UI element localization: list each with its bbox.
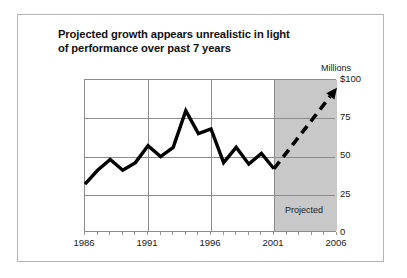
chart-title-line-2: of performance over past 7 years	[58, 42, 368, 56]
x-tick-label-1996: 1996	[190, 237, 230, 248]
x-tick-label-1991: 1991	[127, 237, 167, 248]
x-tick-2002	[286, 232, 287, 235]
actual-series-line	[85, 111, 274, 184]
chart-card: Projected growth appears unrealistic in …	[17, 14, 384, 262]
x-tick-label-2006: 2006	[316, 237, 356, 248]
y-tick-label-50: 50	[340, 150, 351, 160]
x-tick-1987	[97, 232, 98, 235]
x-tick-1995	[197, 232, 198, 235]
x-tick-1999	[248, 232, 249, 235]
y-tick-label-100: $100	[340, 74, 361, 84]
chart-title: Projected growth appears unrealistic in …	[58, 28, 368, 55]
x-tick-1986	[84, 232, 85, 235]
projected-series-line	[274, 96, 330, 168]
x-tick-label-1986: 1986	[64, 237, 104, 248]
x-tick-1992	[160, 232, 161, 235]
x-tick-2001	[273, 232, 274, 235]
x-tick-2006	[336, 232, 337, 235]
chart-figure: Projected growth appears unrealistic in …	[0, 0, 407, 278]
chart-title-line-1: Projected growth appears unrealistic in …	[58, 28, 368, 42]
y-tick-label-0: 0	[340, 227, 345, 237]
plot-area: Projected	[84, 79, 336, 232]
x-tick-1997	[223, 232, 224, 235]
x-tick-1996	[210, 232, 211, 235]
series-paths	[85, 80, 337, 233]
x-tick-2000	[260, 232, 261, 235]
x-tick-2003	[298, 232, 299, 235]
y-axis-units-label: Millions	[321, 63, 351, 73]
x-tick-1993	[172, 232, 173, 235]
x-tick-2005	[323, 232, 324, 235]
x-tick-label-2001: 2001	[253, 237, 293, 248]
y-tick-label-75: 75	[340, 112, 351, 122]
x-tick-1994	[185, 232, 186, 235]
x-tick-1998	[235, 232, 236, 235]
x-tick-1989	[122, 232, 123, 235]
x-tick-1988	[109, 232, 110, 235]
x-tick-1990	[134, 232, 135, 235]
x-tick-1991	[147, 232, 148, 235]
y-tick-label-25: 25	[340, 189, 351, 199]
projected-arrow-head	[326, 88, 337, 100]
x-tick-2004	[311, 232, 312, 235]
